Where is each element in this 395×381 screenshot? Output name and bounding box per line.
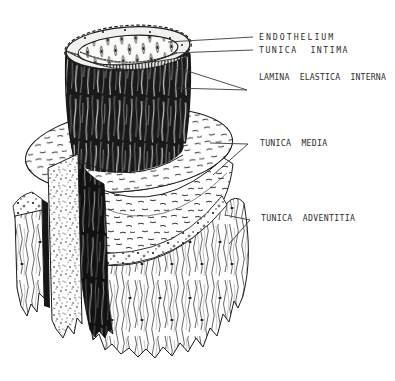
label-tunica-intima: TUNICA INTIMA bbox=[259, 45, 349, 55]
media-radial-cut-face bbox=[48, 154, 82, 338]
label-tunica-adventitia: TUNICA ADVENTITIA bbox=[261, 213, 355, 223]
artery-diagram: ENDOTHELIUM TUNICA INTIMA LAMINA ELASTIC… bbox=[0, 0, 395, 381]
label-endothelium: ENDOTHELIUM bbox=[259, 32, 335, 42]
artery-illustration: ENDOTHELIUM TUNICA INTIMA LAMINA ELASTIC… bbox=[0, 0, 395, 381]
label-lamina-elastica-interna: LAMINA ELASTICA INTERNA bbox=[259, 72, 386, 82]
label-tunica-media: TUNICA MEDIA bbox=[260, 138, 327, 148]
